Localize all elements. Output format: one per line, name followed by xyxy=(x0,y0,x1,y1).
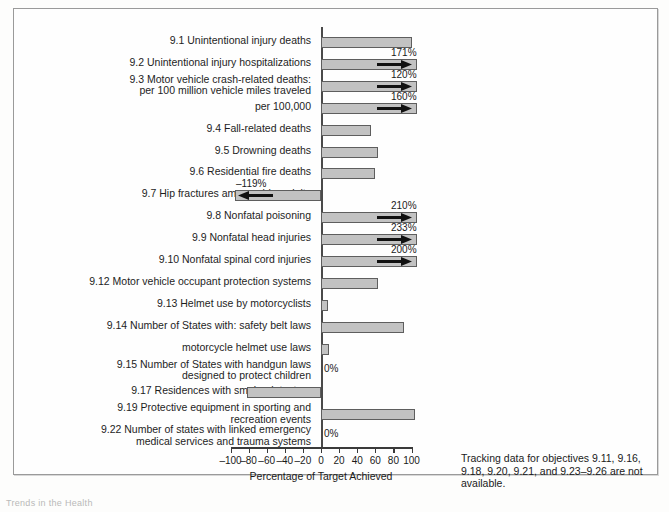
bar-value-label: 0% xyxy=(324,428,338,439)
x-axis-tick xyxy=(412,447,413,453)
bar xyxy=(321,344,329,355)
x-axis-tick xyxy=(231,447,232,453)
x-axis-tick xyxy=(321,447,322,453)
bar xyxy=(321,409,415,420)
bar-row-label: 9.10 Nonfatal spinal cord injuries xyxy=(11,254,311,266)
bar-row: 9.15 Number of States with handgun laws … xyxy=(14,360,657,382)
bar-row: 9.5 Drowning deaths xyxy=(14,141,657,163)
bar-row-label: 9.14 Number of States with: safety belt … xyxy=(11,320,311,332)
bar-row: 9.13 Helmet use by motorcyclists xyxy=(14,294,657,316)
bar-row-label: motorcycle helmet use laws xyxy=(11,342,311,354)
bar-row-label: 9.15 Number of States with handgun laws … xyxy=(11,359,311,382)
bar-row-label: 9.9 Nonfatal head injuries xyxy=(11,232,311,244)
bar-value-label: 171% xyxy=(391,47,417,58)
bar xyxy=(321,300,328,311)
bar xyxy=(321,322,404,333)
bar-value-label: 200% xyxy=(391,244,417,255)
bar-row: 9.1 Unintentional injury deaths xyxy=(14,31,657,53)
bar-row: 9.17 Residences with smoke detectors xyxy=(14,381,657,403)
bar-row: per 100,000160% xyxy=(14,97,657,119)
bar-row: 9.8 Nonfatal poisoning210% xyxy=(14,206,657,228)
bar-row-label: 9.8 Nonfatal poisoning xyxy=(11,210,311,222)
x-axis-tick xyxy=(285,447,286,453)
bar xyxy=(321,147,378,158)
x-axis-tick-label: 100 xyxy=(397,455,427,466)
bar-row: 9.12 Motor vehicle occupant protection s… xyxy=(14,272,657,294)
bar xyxy=(321,168,375,179)
x-axis-tick xyxy=(267,447,268,453)
bar-row-label: 9.13 Helmet use by motorcyclists xyxy=(11,298,311,310)
bar-row-label: 9.4 Fall-related deaths xyxy=(11,123,311,135)
bar-row-label: 9.5 Drowning deaths xyxy=(11,145,311,157)
bar-row-label: per 100,000 xyxy=(11,101,311,113)
x-axis-tick xyxy=(249,447,250,453)
bar-row: 9.7 Hip fractures among older adults–119… xyxy=(14,184,657,206)
bar-row-label: 9.12 Motor vehicle occupant protection s… xyxy=(11,276,311,288)
bar-value-label: 233% xyxy=(391,222,417,233)
bar-value-label: 0% xyxy=(324,363,338,374)
bar-row: 9.6 Residential fire deaths xyxy=(14,162,657,184)
bar-value-label: 120% xyxy=(391,69,417,80)
bar xyxy=(321,125,371,136)
page-footer-caption: Trends in the Health xyxy=(6,498,93,508)
bar-row-label: 9.19 Protective equipment in sporting an… xyxy=(11,402,311,425)
bar xyxy=(321,278,378,289)
bar-row-label: 9.22 Number of states with linked emerge… xyxy=(11,424,311,447)
bar-chart-plot-area: 9.1 Unintentional injury deaths9.2 Unint… xyxy=(14,9,657,474)
bar xyxy=(321,256,417,267)
bar-row: 9.19 Protective equipment in sporting an… xyxy=(14,403,657,425)
bar-value-label: 160% xyxy=(391,91,417,102)
bar-row-label: 9.2 Unintentional injury hospitalization… xyxy=(11,57,311,69)
bar xyxy=(247,387,321,398)
bar-row: 9.9 Nonfatal head injuries233% xyxy=(14,228,657,250)
bar-row-label: 9.1 Unintentional injury deaths xyxy=(11,35,311,47)
bar-row: 9.3 Motor vehicle crash-related deaths: … xyxy=(14,75,657,97)
x-axis-tick xyxy=(357,447,358,453)
bar-row-label: 9.3 Motor vehicle crash-related deaths: … xyxy=(11,74,311,97)
bar-row: 9.4 Fall-related deaths xyxy=(14,119,657,141)
x-axis-tick xyxy=(339,447,340,453)
tracking-data-note: Tracking data for objectives 9.11, 9.16,… xyxy=(461,452,651,490)
bar-row: 9.10 Nonfatal spinal cord injuries200% xyxy=(14,250,657,272)
bar-row: 9.22 Number of states with linked emerge… xyxy=(14,425,657,447)
bar-value-label: 210% xyxy=(391,200,417,211)
bar-row: 9.14 Number of States with: safety belt … xyxy=(14,316,657,338)
chart-frame: 9.1 Unintentional injury deaths9.2 Unint… xyxy=(13,8,658,475)
x-axis-title: Percentage of Target Achieved xyxy=(201,470,441,482)
bar-row: motorcycle helmet use laws xyxy=(14,338,657,360)
bar-row-label: 9.6 Residential fire deaths xyxy=(11,166,311,178)
x-axis-tick xyxy=(393,447,394,453)
x-axis-tick xyxy=(375,447,376,453)
bar-value-label: –119% xyxy=(236,178,266,189)
bar xyxy=(321,103,417,114)
bar-row: 9.2 Unintentional injury hospitalization… xyxy=(14,53,657,75)
bar xyxy=(235,190,321,201)
x-axis-tick xyxy=(303,447,304,453)
